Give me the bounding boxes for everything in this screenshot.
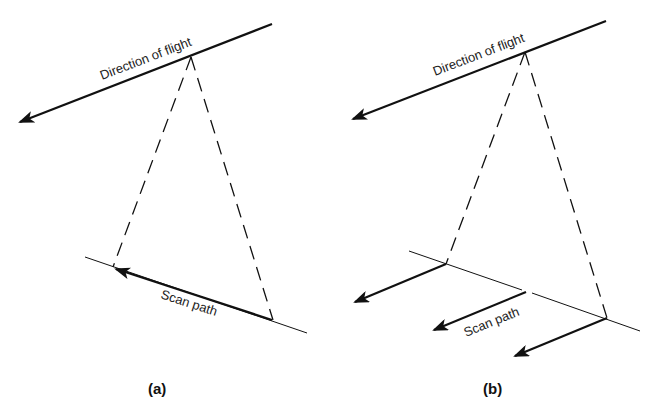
flight-direction-arrow-a <box>20 24 272 122</box>
diagram-canvas: Direction of flight Scan path (a) Direct… <box>0 0 652 416</box>
scanning-diagram: Direction of flight Scan path (a) Direct… <box>0 0 652 416</box>
scan-label-b: Scan path <box>462 304 522 340</box>
caption-b: (b) <box>483 380 502 397</box>
fov-line-right-a <box>191 57 273 320</box>
panel-a: Direction of flight Scan path (a) <box>20 24 307 397</box>
panel-b: Direction of flight Scan path (b) <box>353 21 640 397</box>
scan-path-arrow-a <box>116 269 272 320</box>
flight-direction-arrow-b <box>353 21 606 119</box>
scan-arrow-left-b <box>355 264 446 302</box>
fov-line-left-a <box>113 57 191 267</box>
fov-line-right-b <box>525 52 607 318</box>
flight-label-a: Direction of flight <box>98 34 194 83</box>
flight-label-b: Direction of flight <box>431 30 527 79</box>
caption-a: (a) <box>148 380 166 397</box>
scan-arrow-right-b <box>515 318 607 356</box>
fov-line-left-b <box>446 52 525 264</box>
ground-line-b-1 <box>409 251 522 290</box>
ground-line-b-2 <box>532 293 640 331</box>
scan-label-a: Scan path <box>159 287 219 319</box>
